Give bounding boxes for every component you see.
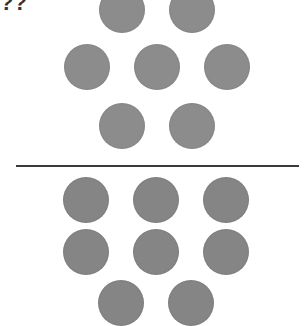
circle-dot bbox=[133, 177, 179, 223]
divider-line bbox=[16, 165, 299, 167]
circle-dot bbox=[203, 177, 249, 223]
circle-dot bbox=[204, 44, 250, 90]
circle-dot bbox=[98, 280, 144, 326]
circle-dot bbox=[63, 177, 109, 223]
circle-dot bbox=[169, 0, 215, 33]
circle-dot bbox=[99, 0, 145, 33]
circle-dot bbox=[134, 44, 180, 90]
circle-dot bbox=[63, 229, 109, 275]
circle-dot bbox=[99, 103, 145, 149]
circle-dot bbox=[203, 229, 249, 275]
circle-dot bbox=[133, 229, 179, 275]
circle-dot bbox=[168, 280, 214, 326]
cropped-label-fragment: ?? bbox=[0, 0, 27, 16]
circle-dot bbox=[64, 44, 110, 90]
circle-dot bbox=[169, 103, 215, 149]
